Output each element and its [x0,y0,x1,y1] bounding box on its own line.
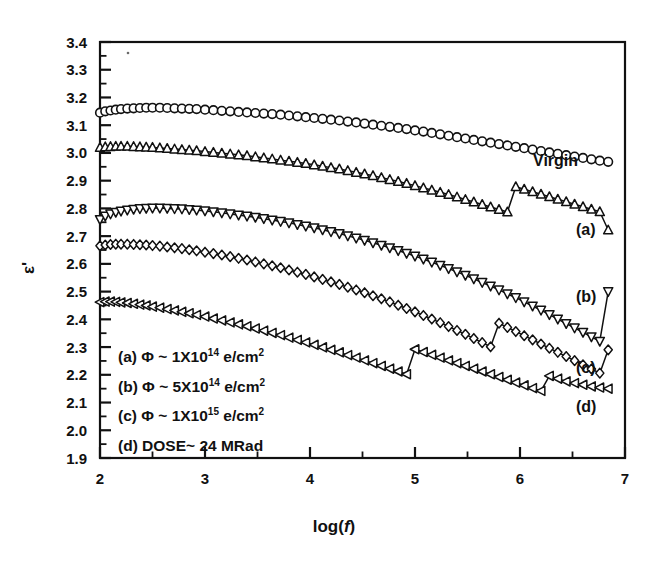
legend-item-unit-exponent: 2 [259,347,265,358]
x-tick-label: 2 [96,470,104,487]
data-point [444,131,453,140]
y-tick-label: 2.4 [66,311,88,328]
data-point [596,156,605,165]
legend-item-unit: e/cm [220,378,260,395]
legend-item-unit-exponent: 2 [259,377,265,388]
data-point [234,108,243,117]
legend-item-key: (c) [118,407,141,424]
legend-item-value: DOSE~ 24 MRad [142,437,263,454]
y-tick-label: 2.2 [66,366,87,383]
y-tick-label: 3.1 [66,117,87,134]
data-point [209,106,218,115]
y-tick-label: 2.8 [66,200,87,217]
x-tick-label: 5 [411,470,419,487]
legend-item-key: (b) [118,378,142,395]
data-point [276,110,285,119]
data-point [386,123,395,132]
x-axis-title-text: log(f) [313,517,356,536]
data-point [520,144,529,153]
data-point [419,127,428,136]
legend-item-unit-exponent: 2 [259,406,265,417]
data-point [461,134,470,143]
x-axis-title: log(f) [313,517,356,536]
series-label-c: (c) [576,359,596,376]
data-point [344,117,353,126]
data-point [453,133,462,142]
data-point [428,129,437,138]
data-point [411,126,420,135]
data-point [302,113,311,122]
y-tick-label: 2.5 [66,283,87,300]
data-point [470,136,479,145]
legend-item-value: Φ ~ 1X10 [141,348,208,365]
data-point [436,130,445,139]
series-label-d: (d) [576,398,596,415]
y-tick-label: 3.3 [66,61,87,78]
data-point [512,143,521,152]
data-point [604,158,613,167]
x-axis-title-suffix: ) [350,517,356,536]
legend-item-value: Φ ~ 5X10 [142,378,209,395]
data-point [486,138,495,147]
data-point [360,119,369,128]
data-point [201,105,210,114]
y-tick-label: 3.0 [66,144,87,161]
data-point [335,116,344,125]
data-point [293,112,302,121]
legend-item: (c) Φ ~ 1X1015 e/cm2 [118,406,265,424]
y-tick-label: 2.1 [66,394,87,411]
x-tick-label: 3 [201,470,209,487]
data-point [503,141,512,150]
legend-item-exponent: 15 [208,406,220,417]
data-point [402,125,411,134]
legend-item-exponent: 14 [208,347,220,358]
data-point [310,114,319,123]
data-point [318,115,327,124]
data-point [260,109,269,118]
y-axis-title: ε' [19,262,38,274]
series-label-a: (a) [576,221,596,238]
data-point [327,115,336,124]
data-point [478,137,487,146]
y-tick-label: 1.9 [66,450,87,467]
scan-artifact-speckle [127,52,130,55]
data-point [377,121,386,130]
data-point [226,107,235,116]
legend-item-unit: e/cm [219,407,259,424]
y-tick-label: 2.0 [66,422,87,439]
data-point [579,154,588,163]
y-tick-label: 3.4 [66,34,88,51]
legend-item-value: Φ ~ 1X10 [141,407,208,424]
data-point [251,109,260,118]
legend-item-key: (d) [118,437,142,454]
y-tick-label: 2.3 [66,339,87,356]
y-tick-label: 2.7 [66,228,87,245]
series-label-virgin: Virgin [533,152,578,169]
data-point [352,118,361,127]
y-tick-label: 3.2 [66,89,87,106]
legend-item: (d) DOSE~ 24 MRad [118,437,263,454]
data-point [587,155,596,164]
legend-item: (b) Φ ~ 5X1014 e/cm2 [118,377,265,395]
legend-item-exponent: 14 [209,377,221,388]
data-point [192,105,201,114]
data-point [268,110,277,119]
x-tick-label: 7 [621,470,629,487]
y-axis-ticks: 3.43.33.23.13.02.92.82.72.62.52.42.32.22… [66,34,111,467]
data-point [285,111,294,120]
x-tick-label: 6 [516,470,524,487]
y-tick-label: 2.9 [66,172,87,189]
y-tick-label: 2.6 [66,255,87,272]
legend-item: (a) Φ ~ 1X1014 e/cm2 [118,347,265,365]
series-label-b: (b) [576,288,596,305]
legend-item-unit: e/cm [219,348,259,365]
x-tick-label: 4 [306,470,315,487]
chart-canvas: 3.43.33.23.13.02.92.82.72.62.52.42.32.22… [0,0,656,570]
dielectric-constant-vs-log-frequency-figure: 3.43.33.23.13.02.92.82.72.62.52.42.32.22… [0,0,656,570]
data-point [394,124,403,133]
x-axis-title-prefix: log( [313,517,344,536]
data-point [218,106,227,115]
data-point [243,108,252,117]
data-point [369,120,378,129]
data-point [495,140,504,149]
